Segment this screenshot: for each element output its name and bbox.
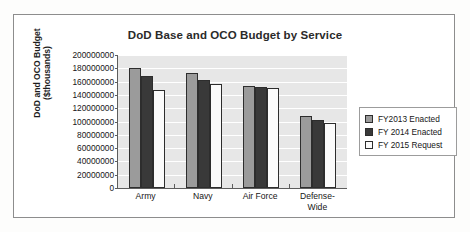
x-axis-category-label: Defense-Wide <box>289 191 346 212</box>
y-axis-tick-mark <box>115 188 118 189</box>
x-axis-category-label: Air Force <box>232 191 289 212</box>
chart-legend: FY2013 EnactedFY 2014 EnactedFY 2015 Req… <box>359 107 457 156</box>
y-axis-tick-label: 200000000 <box>56 50 114 60</box>
bars-layer <box>118 55 347 188</box>
legend-item: FY 2015 Request <box>365 138 451 151</box>
chart-title: DoD Base and OCO Budget by Service <box>14 29 456 41</box>
bar-group <box>233 55 290 188</box>
plot-area <box>117 55 347 189</box>
x-axis-category-label: Navy <box>174 191 231 212</box>
legend-swatch-icon <box>365 141 373 149</box>
x-axis-category-label: Army <box>117 191 174 212</box>
bar <box>267 88 279 188</box>
y-axis-tick-label: 140000000 <box>56 90 114 100</box>
bar <box>300 116 312 188</box>
bar <box>255 87 267 188</box>
y-axis-title: DoD and OCO Budget ($thousands) <box>31 9 53 137</box>
y-axis-tick-label: 20000000 <box>56 170 114 180</box>
y-axis-tick-label: 0 <box>56 183 114 193</box>
x-axis-category-label-line: Wide <box>289 202 346 213</box>
legend-item: FY 2014 Enacted <box>365 125 451 138</box>
x-axis-category-label-line: Navy <box>174 191 231 202</box>
legend-swatch-icon <box>365 128 373 136</box>
legend-swatch-icon <box>365 115 373 123</box>
page-background: DoD Base and OCO Budget by Service DoD a… <box>0 0 470 232</box>
bar-group <box>290 55 347 188</box>
legend-label: FY 2014 Enacted <box>378 127 442 137</box>
bar <box>186 73 198 188</box>
bar-group <box>118 55 175 188</box>
x-axis-category-label-line: Defense- <box>289 191 346 202</box>
bar-group <box>175 55 232 188</box>
legend-label: FY 2015 Request <box>378 140 442 150</box>
bar <box>141 76 153 188</box>
y-axis-title-line-1: DoD and OCO Budget <box>32 28 43 117</box>
bar <box>210 84 222 188</box>
y-axis-tick-label: 180000000 <box>56 63 114 73</box>
x-axis-category-label-line: Army <box>117 191 174 202</box>
y-axis-tick-label: 40000000 <box>56 156 114 166</box>
x-axis-category-label-line: Air Force <box>232 191 289 202</box>
y-axis-tick-label: 120000000 <box>56 103 114 113</box>
y-axis-tick-label: 80000000 <box>56 130 114 140</box>
bar <box>312 120 324 188</box>
bar <box>324 123 336 188</box>
bar <box>153 90 165 188</box>
legend-item: FY2013 Enacted <box>365 112 451 125</box>
bar <box>129 68 141 188</box>
y-axis-tick-label: 160000000 <box>56 77 114 87</box>
legend-label: FY2013 Enacted <box>378 114 440 124</box>
y-axis-tick-label: 60000000 <box>56 143 114 153</box>
y-axis-tick-labels: 2000000001800000001600000001400000001200… <box>56 55 114 188</box>
chart-frame: DoD Base and OCO Budget by Service DoD a… <box>13 14 455 218</box>
bar <box>198 80 210 188</box>
bar <box>243 86 255 188</box>
y-axis-tick-label: 100000000 <box>56 117 114 127</box>
y-axis-title-line-2: ($thousands) <box>42 46 53 100</box>
x-axis-category-labels: ArmyNavyAir ForceDefense-Wide <box>117 191 346 212</box>
